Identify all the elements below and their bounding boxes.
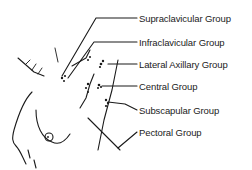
axilla-outline <box>80 74 94 108</box>
label-infraclavicular-group: Infraclavicular Group <box>139 37 225 48</box>
shoulder-outline <box>18 58 44 76</box>
axillary-lymph-node-diagram: Supraclavicular Group Infraclavicular Gr… <box>0 0 252 170</box>
label-pectoral-group: Pectoral Group <box>139 127 202 138</box>
lymph-node-clusters <box>47 56 109 138</box>
subscapular-leader-line <box>108 102 137 110</box>
pectoral-leader-line <box>88 118 137 148</box>
areola <box>45 133 53 141</box>
arm-outline <box>98 60 118 150</box>
label-lateral-axillary-group: Lateral Axillary Group <box>139 59 228 70</box>
label-supraclavicular-group: Supraclavicular Group <box>139 13 231 24</box>
label-subscapular-group: Subscapular Group <box>139 105 219 116</box>
label-central-group: Central Group <box>139 81 197 92</box>
torso-illustration <box>0 0 252 170</box>
